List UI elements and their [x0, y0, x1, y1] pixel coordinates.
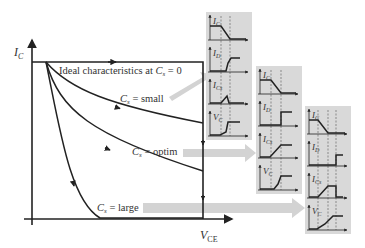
waveform-panel-optim: IC ID ICs VC: [256, 66, 302, 194]
waveform-panel-large: IC ID ICs VC: [305, 106, 351, 234]
arrow-large-to-panel3: [143, 198, 305, 218]
diagram-canvas: IC VCE Ideal characteristics at Cs = 0 C…: [0, 0, 365, 248]
label-ideal: Ideal characteristics at Cs = 0: [59, 65, 182, 78]
arrow-small-to-panel1: [169, 72, 210, 101]
arrow-optim-to-panel2: [183, 144, 256, 162]
curve-cs-optim: [46, 62, 203, 171]
curve-ideal: [32, 62, 203, 219]
waveform-panel-small: IC ID ICs VC: [206, 12, 252, 140]
curve-cs-large: [46, 62, 203, 218]
label-cs-optim: Cs = optim: [132, 146, 177, 159]
y-axis-label: IC: [13, 45, 24, 61]
label-cs-large: Cs = large: [97, 202, 139, 215]
x-axis-label: VCE: [200, 228, 218, 244]
label-cs-small: Cs = small: [120, 93, 164, 106]
